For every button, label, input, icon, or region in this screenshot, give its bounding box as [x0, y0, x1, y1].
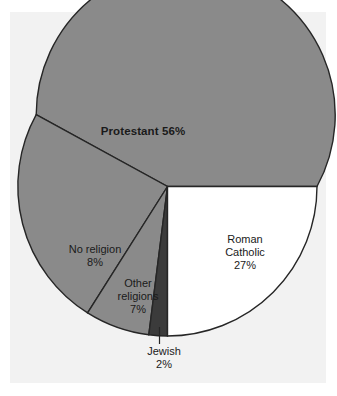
- pie-chart-canvas: [0, 0, 337, 396]
- pie-chart-figure: Protestant 56% Roman Catholic 27% No rel…: [0, 0, 337, 396]
- pie-slice-roman-catholic[interactable]: [168, 187, 318, 337]
